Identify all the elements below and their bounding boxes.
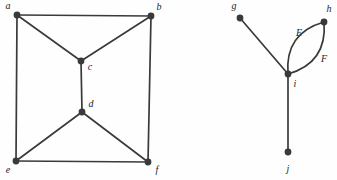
vertex-label-d: d [89, 98, 95, 109]
vertex-h [321, 19, 328, 26]
right-graph: EFghij [232, 0, 332, 174]
vertex-label-e: e [6, 164, 11, 175]
vertex-label-c: c [88, 61, 93, 72]
vertex-label-i: i [294, 78, 297, 89]
left-graph: abcdef [6, 0, 162, 175]
graph-edge-a-c [17, 15, 81, 61]
vertex-label-a: a [6, 0, 11, 11]
graph-edge-g-i [240, 18, 288, 74]
graph-figure: abcdefEFghij [0, 0, 337, 180]
vertex-i [285, 71, 292, 78]
vertex-label-g: g [232, 0, 237, 11]
edge-label-F: F [320, 53, 328, 64]
graph-edge-d-e [16, 112, 82, 161]
graph-canvas: abcdefEFghij [0, 0, 337, 180]
vertex-a [14, 12, 21, 19]
graph-edge-d-f [82, 112, 148, 162]
vertex-label-b: b [157, 1, 162, 12]
graph-edge-c-d [81, 61, 82, 112]
vertex-g [237, 15, 244, 22]
graph-edge-a-b [17, 15, 151, 16]
vertex-label-h: h [327, 3, 332, 14]
vertex-f [145, 159, 152, 166]
vertex-label-j: j [285, 163, 290, 174]
vertex-b [148, 13, 155, 20]
vertex-c [78, 58, 85, 65]
graph-edge-b-c [81, 16, 151, 61]
vertex-e [13, 158, 20, 165]
vertex-label-f: f [156, 164, 160, 175]
graph-edge-b-f [148, 16, 151, 162]
vertex-j [285, 149, 292, 156]
graph-edge-e-f [16, 161, 148, 162]
vertex-d [79, 109, 86, 116]
graph-edge-a-e [16, 15, 17, 161]
